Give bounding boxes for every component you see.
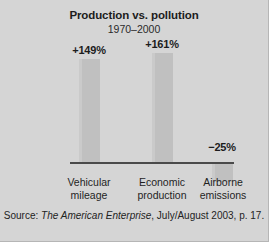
bar-value-label-economic-production: +161% <box>123 38 201 50</box>
source-caption: Source: The American Enterprise, July/Au… <box>0 210 268 221</box>
source-publication: The American Enterprise <box>41 210 151 221</box>
axis-baseline <box>70 162 234 164</box>
chart-figure: Production vs. pollution 1970–2000 +149%… <box>0 0 269 242</box>
category-label-line-1: Airborne <box>181 176 265 189</box>
category-label-line-1: Vehicular <box>47 176 131 189</box>
plot-area: +149% +161% −25% Vehicular mileage Econo… <box>0 0 269 242</box>
category-label-line-2: emissions <box>181 189 265 202</box>
bar-value-label-vehicular-mileage: +149% <box>50 44 128 56</box>
category-label-airborne-emissions: Airborne emissions <box>181 176 265 201</box>
bar-vehicular-mileage <box>79 59 100 162</box>
category-label-line-2: mileage <box>47 189 131 202</box>
bar-value-label-airborne-emissions: −25% <box>183 141 261 153</box>
source-prefix: Source: <box>4 210 41 221</box>
category-label-vehicular-mileage: Vehicular mileage <box>47 176 131 201</box>
bar-economic-production <box>152 53 173 162</box>
source-suffix: , July/August 2003, p. 17. <box>151 210 264 221</box>
